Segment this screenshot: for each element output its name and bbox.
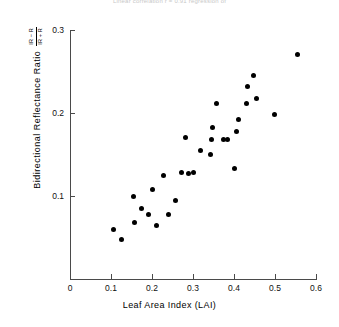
x-axis-tick [316, 274, 317, 279]
data-point [225, 137, 230, 142]
x-axis-tick-label: 0.2 [137, 283, 167, 293]
data-point [214, 101, 219, 106]
data-point [179, 170, 184, 175]
data-point [208, 152, 213, 157]
x-axis-line [70, 279, 317, 280]
fraction-numerator: IR − R [28, 27, 35, 45]
clipped-top-caption: Linear correlation r = 0.91 regression o… [0, 0, 339, 5]
data-point [245, 84, 250, 89]
data-point [132, 220, 137, 225]
data-point [191, 170, 196, 175]
fraction-denominator: IR + R [37, 27, 44, 45]
x-axis-tick-label: 0.6 [301, 283, 331, 293]
data-point [244, 101, 249, 106]
data-point [254, 96, 259, 101]
data-point [161, 173, 166, 178]
x-axis-tick-label: 0.3 [178, 283, 208, 293]
data-point [198, 148, 203, 153]
data-point [154, 223, 159, 228]
data-point [232, 166, 237, 171]
data-point [150, 187, 155, 192]
y-axis-title-group: Bidirectional Reflectance Ratio IR − R I… [29, 0, 45, 223]
x-axis-tick-label: 0.1 [96, 283, 126, 293]
data-point [209, 137, 214, 142]
data-point [210, 125, 215, 130]
x-axis-tick-label: 0 [55, 283, 85, 293]
y-axis-title-text: Bidirectional Reflectance Ratio [32, 51, 42, 189]
data-point [139, 206, 144, 211]
scatter-chart-figure: Linear correlation r = 0.91 regression o… [0, 0, 339, 327]
x-axis-title: Leaf Area Index (LAI) [0, 300, 339, 310]
data-point [119, 237, 124, 242]
x-axis-tick-label: 0.5 [260, 283, 290, 293]
data-point [131, 194, 136, 199]
data-point [295, 52, 300, 57]
data-point [183, 135, 188, 140]
data-point [146, 212, 151, 217]
data-point [234, 129, 239, 134]
data-point [166, 212, 171, 217]
data-point [173, 198, 178, 203]
plot-area [70, 30, 316, 279]
data-point [111, 227, 116, 232]
data-point [251, 73, 256, 78]
y-axis-fraction: IR − R IR + R [28, 27, 44, 45]
data-point [236, 117, 241, 122]
x-axis-tick-label: 0.4 [219, 283, 249, 293]
data-point [272, 112, 277, 117]
